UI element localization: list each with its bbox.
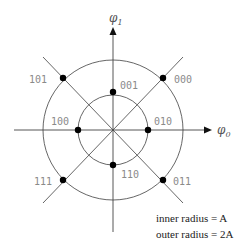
- label-000: 000: [174, 74, 192, 85]
- point-110: [110, 162, 116, 168]
- label-101: 101: [29, 74, 47, 85]
- point-101: [60, 75, 66, 81]
- label-110: 110: [121, 169, 139, 180]
- phi1-arrow-icon: [110, 27, 117, 35]
- point-000: [160, 75, 166, 81]
- outer-radius-note: outer radius = 2A: [156, 228, 233, 240]
- label-100: 100: [51, 116, 69, 127]
- label-001: 001: [120, 80, 138, 91]
- constellation-diagram: φ1 φ0 001 010 110 100 000 101 111 011 in…: [0, 0, 246, 251]
- point-100: [75, 127, 81, 133]
- inner-radius-note: inner radius = A: [156, 212, 227, 224]
- phi1-label: φ1: [109, 11, 123, 27]
- point-010: [145, 127, 151, 133]
- point-111: [60, 177, 66, 183]
- point-001: [110, 89, 116, 95]
- label-010: 010: [154, 116, 172, 127]
- label-011: 011: [173, 176, 191, 187]
- phi0-label: φ0: [217, 123, 231, 139]
- label-111: 111: [34, 176, 52, 187]
- point-011: [160, 177, 166, 183]
- phi0-arrow-icon: [204, 127, 212, 134]
